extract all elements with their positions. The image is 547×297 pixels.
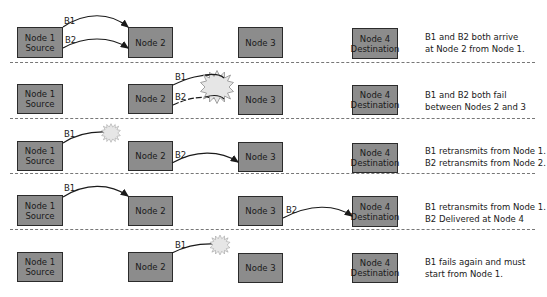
packet-b2-label: B2 <box>175 92 186 102</box>
packet-b1-path: B1 <box>63 183 128 197</box>
packet-b2-label: B2 <box>286 205 297 215</box>
packet-b1-path: B1 <box>172 240 217 253</box>
packet-b2-path: B2 <box>172 150 238 163</box>
packet-b1-label: B1 <box>64 129 75 139</box>
packet-b1-path: B1 <box>63 16 128 27</box>
packet-b1-label: B1 <box>175 240 186 250</box>
packet-b2-label: B2 <box>175 150 186 160</box>
edges-layer: B1 B2 B1 B2 B1 B2 B1 <box>0 0 547 297</box>
failure-burst-icon <box>102 124 121 143</box>
failure-burst-icon <box>210 235 230 255</box>
packet-b2-label: B2 <box>65 35 76 45</box>
packet-b1-label: B1 <box>175 72 186 82</box>
packet-b1-path: B1 <box>63 129 108 143</box>
packet-b1-label: B1 <box>64 183 75 193</box>
retransmission-diagram: Node 1Source Node 2 Node 3 Node 4Destina… <box>0 0 547 297</box>
packet-b1-label: B1 <box>64 16 75 26</box>
packet-b2-path: B2 <box>283 205 352 218</box>
packet-b2-path: B2 <box>63 35 128 48</box>
